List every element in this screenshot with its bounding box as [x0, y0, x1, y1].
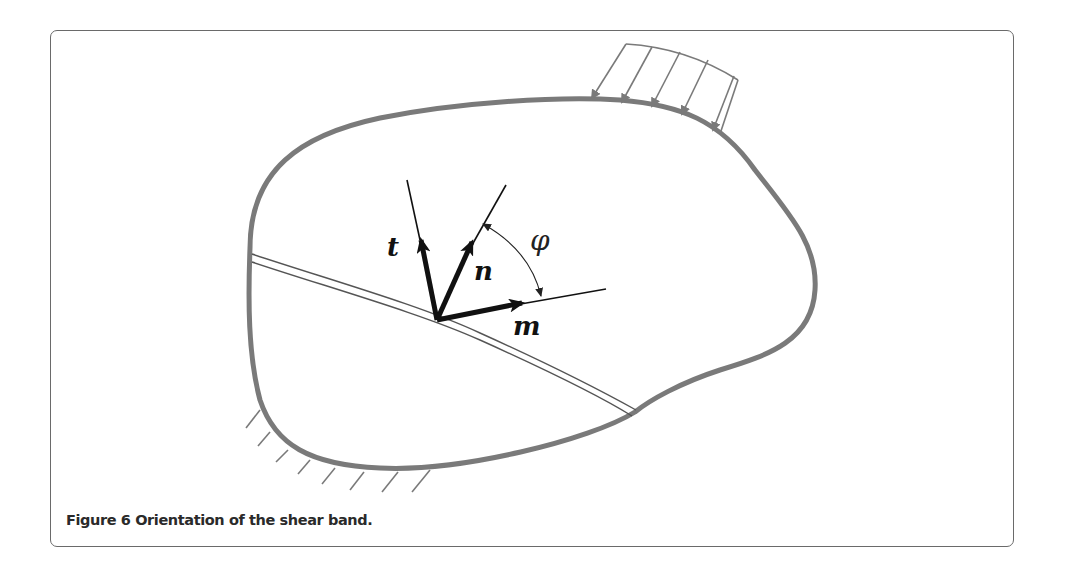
- shear-band: [252, 254, 636, 416]
- reference-lines: [407, 180, 606, 305]
- fixed-support-icon: [246, 410, 430, 492]
- vectors: [421, 240, 522, 320]
- distributed-load-icon: [592, 44, 738, 134]
- n-vector: [437, 242, 472, 320]
- label-phi: φ: [530, 224, 550, 257]
- label-t: t: [387, 232, 399, 262]
- figure-caption: Figure 6 Orientation of the shear band.: [66, 512, 372, 528]
- body-outline: [249, 99, 815, 469]
- shear-band-diagram: t n m φ: [0, 0, 1070, 574]
- label-m: m: [513, 311, 541, 341]
- m-vector: [437, 303, 522, 320]
- t-vector: [421, 240, 437, 320]
- label-n: n: [474, 256, 493, 286]
